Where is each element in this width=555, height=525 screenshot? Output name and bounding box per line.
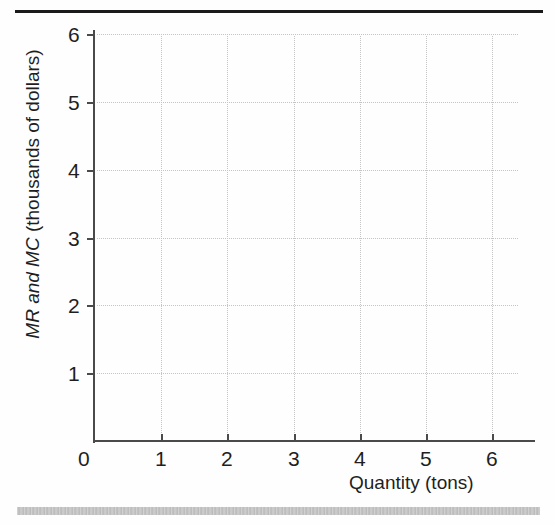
y-tick-label-2: 2 [56, 295, 80, 316]
x-tick-label-4: 4 [346, 448, 374, 469]
x-tick-label-6: 6 [478, 448, 506, 469]
gridline-x-2 [227, 36, 229, 439]
gridline-x-5 [426, 36, 428, 439]
x-tick-5 [426, 434, 428, 441]
gridline-x-6 [492, 36, 494, 439]
y-tick-4 [87, 170, 95, 172]
gridline-x-1 [161, 36, 163, 439]
x-axis-title: Quantity (tons) [349, 472, 474, 494]
y-axis-title: MR and MC (thousands of dollars) [22, 24, 44, 364]
y-axis-line [93, 30, 95, 443]
x-tick-2 [227, 434, 229, 441]
x-axis-line [93, 440, 535, 442]
y-tick-label-4: 4 [56, 160, 80, 181]
bottom-rule-divider [17, 507, 540, 515]
y-tick-6 [87, 34, 95, 36]
x-tick-1 [161, 434, 163, 441]
x-tick-3 [294, 434, 296, 441]
y-tick-1 [87, 373, 95, 375]
y-tick-label-3: 3 [56, 228, 80, 249]
x-tick-4 [360, 434, 362, 441]
y-tick-label-5: 5 [56, 92, 80, 113]
gridline-x-3 [294, 36, 296, 439]
gridline-x-4 [360, 36, 362, 439]
x-tick-label-5: 5 [412, 448, 440, 469]
top-rule-divider [15, 10, 543, 13]
y-axis-title-symbol: MR and MC [22, 237, 43, 338]
y-tick-2 [87, 305, 95, 307]
x-tick-label-3: 3 [280, 448, 308, 469]
chart-page: 6 5 4 3 2 1 0 1 2 3 4 5 6 MR and MC (tho… [0, 0, 555, 525]
x-tick-label-0: 0 [70, 448, 98, 469]
x-tick-label-2: 2 [213, 448, 241, 469]
y-tick-label-1: 1 [56, 363, 80, 384]
x-tick-label-1: 1 [147, 448, 175, 469]
y-tick-3 [87, 238, 95, 240]
y-axis-title-unit: (thousands of dollars) [22, 49, 43, 237]
y-tick-label-6: 6 [56, 24, 80, 45]
y-tick-5 [87, 102, 95, 104]
x-tick-6 [492, 434, 494, 441]
